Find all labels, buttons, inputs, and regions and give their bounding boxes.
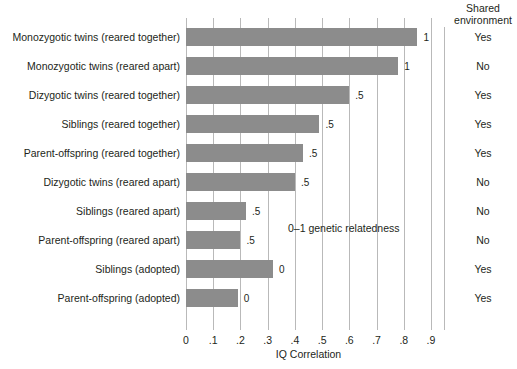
shared-environment-header-line2: environment [454, 14, 512, 26]
shared-environment-value: No [449, 234, 517, 246]
bar [186, 231, 240, 249]
shared-environment-value: Yes [449, 89, 517, 101]
genetic-relatedness-annotation: 0–1 genetic relatedness [288, 222, 400, 234]
category-label: Siblings (adopted) [95, 263, 180, 275]
category-label: Dizygotic twins (reared apart) [43, 176, 180, 188]
category-label: Parent-offspring (adopted) [58, 292, 180, 304]
bar [186, 173, 295, 191]
shared-environment-value: Yes [449, 31, 517, 43]
bar-value-label: .5 [325, 119, 333, 130]
x-tick-label: 0 [183, 334, 189, 346]
x-tick-label: .9 [427, 334, 436, 346]
shared-environment-value: Yes [449, 263, 517, 275]
plot-area: 0.1.2.3.4.5.6.7.8.911.5.5.5.5.5.500 [186, 18, 431, 330]
x-tick-label: .3 [263, 334, 272, 346]
category-label-column: Monozygotic twins (reared together)Monoz… [0, 0, 180, 369]
bar-value-label: 0 [244, 293, 250, 304]
bar [186, 144, 303, 162]
bar [186, 202, 246, 220]
x-tick-label: .6 [345, 334, 354, 346]
bar [186, 115, 319, 133]
shared-environment-value: Yes [449, 147, 517, 159]
bar-value-label: 1 [404, 61, 410, 72]
bar-value-label: .5 [246, 235, 254, 246]
x-tick-label: .2 [236, 334, 245, 346]
x-tick-label: .8 [399, 334, 408, 346]
x-tick-label: .1 [209, 334, 218, 346]
bar-value-label: 0 [279, 264, 285, 275]
iq-correlation-chart: Monozygotic twins (reared together)Monoz… [0, 0, 517, 369]
bar [186, 260, 273, 278]
category-label: Dizygotic twins (reared together) [29, 89, 180, 101]
bar-value-label: .5 [301, 177, 309, 188]
shared-environment-value: No [449, 60, 517, 72]
bar-value-label: .5 [355, 90, 363, 101]
category-label: Parent-offspring (reared together) [24, 147, 180, 159]
category-label: Parent-offspring (reared apart) [38, 234, 180, 246]
bar [186, 57, 398, 75]
bar [186, 86, 349, 104]
x-tick-label: .5 [318, 334, 327, 346]
category-label: Siblings (reared apart) [76, 205, 180, 217]
bar-value-label: 1 [423, 32, 429, 43]
x-tick-label: .4 [290, 334, 299, 346]
x-tick-label: .7 [372, 334, 381, 346]
gridline [431, 18, 432, 330]
shared-environment-header-line1: Shared [466, 2, 500, 14]
shared-environment-value: No [449, 205, 517, 217]
category-label: Monozygotic twins (reared together) [13, 31, 181, 43]
bar [186, 289, 238, 307]
right-column-divider [444, 27, 445, 330]
bar-value-label: .5 [252, 206, 260, 217]
bar [186, 28, 417, 46]
category-label: Monozygotic twins (reared apart) [27, 60, 180, 72]
category-label: Siblings (reared together) [62, 118, 180, 130]
shared-environment-value: Yes [449, 118, 517, 130]
bar-value-label: .5 [309, 148, 317, 159]
shared-environment-header: Shared environment [449, 2, 517, 26]
x-axis-title: IQ Correlation [186, 348, 431, 360]
shared-environment-value: Yes [449, 292, 517, 304]
shared-environment-value: No [449, 176, 517, 188]
